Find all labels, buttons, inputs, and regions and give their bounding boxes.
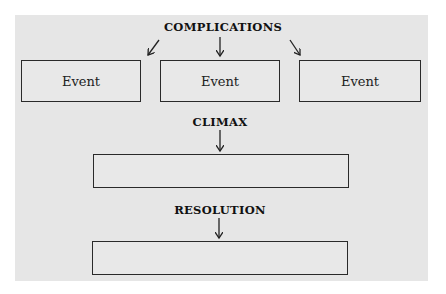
arrows-layer	[0, 0, 446, 294]
arrow-down-right-icon	[290, 40, 300, 55]
arrow-down-left-icon	[148, 40, 159, 55]
